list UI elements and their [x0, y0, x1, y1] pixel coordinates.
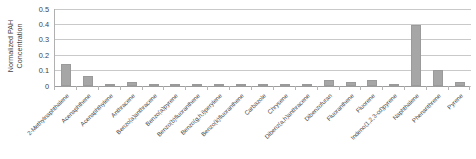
y-axis-title-line-1: Normalized PAH	[6, 20, 15, 73]
bar-slot	[208, 9, 230, 86]
y-axis-tick-label: 0	[45, 81, 49, 90]
bar	[433, 70, 443, 85]
x-axis-category-cell: Phenanthrene	[426, 90, 448, 159]
bar-slot	[186, 9, 208, 86]
x-axis-category-cell: Naphthalene	[404, 90, 426, 159]
x-axis-category-cell: Dibenz(a,h)anthracene	[295, 90, 317, 159]
bar-slot	[230, 9, 252, 86]
bar-slot	[427, 9, 449, 86]
y-axis-tick-label: 0.5	[39, 4, 49, 13]
x-axis-category-label: Pyrene	[446, 92, 464, 110]
y-axis-title-line-2: Concentration	[15, 20, 24, 73]
bar-slot	[77, 9, 99, 86]
bar-slot	[55, 9, 77, 86]
x-axis-category-cell: Benzo(a)anthracene	[142, 90, 164, 159]
y-axis-tick-label: 0.4	[39, 19, 49, 28]
bars-layer	[55, 9, 471, 86]
bar-slot	[318, 9, 340, 86]
x-axis-category-cell: Pyrene	[448, 90, 470, 159]
bar-slot	[383, 9, 405, 86]
bar-slot	[405, 9, 427, 86]
bar-slot	[449, 9, 471, 86]
bar-slot	[274, 9, 296, 86]
y-axis-tick-label: 0.2	[39, 50, 49, 59]
y-axis-tick-label: 0.3	[39, 35, 49, 44]
x-axis-category-cell: 2-Methylnaphthalene	[54, 90, 76, 159]
bar-slot	[361, 9, 383, 86]
bar	[83, 76, 93, 85]
bar-slot	[99, 9, 121, 86]
bar-slot	[121, 9, 143, 86]
bar	[61, 64, 71, 86]
x-axis-category-cell: Carbazole	[251, 90, 273, 159]
y-axis-tick-label: 0.1	[39, 66, 49, 75]
bar-slot	[340, 9, 362, 86]
bar	[411, 25, 421, 85]
x-axis-category-cell: Indeno(1,2,3-cd)pyrene	[382, 90, 404, 159]
x-axis-category-cell: Fluoranthene	[339, 90, 361, 159]
x-axis-category-labels: 2-MethylnaphthaleneAcenaphtheneAcenaphth…	[54, 90, 470, 159]
bar-slot	[164, 9, 186, 86]
normalized-pah-concentration-bar-chart: Normalized PAH Concentration 00.10.20.30…	[0, 0, 476, 159]
bar-slot	[296, 9, 318, 86]
bar-slot	[252, 9, 274, 86]
y-axis-tick-labels: 00.10.20.30.40.5	[26, 0, 52, 92]
x-axis-category-cell: Acenaphthylene	[98, 90, 120, 159]
x-axis-category-cell: Dibenzofuran	[317, 90, 339, 159]
x-axis-category-cell: Acenaphthene	[76, 90, 98, 159]
bar-slot	[143, 9, 165, 86]
x-axis-category-cell: Benzo(k)fluoranthene	[229, 90, 251, 159]
plot-area	[54, 9, 470, 86]
